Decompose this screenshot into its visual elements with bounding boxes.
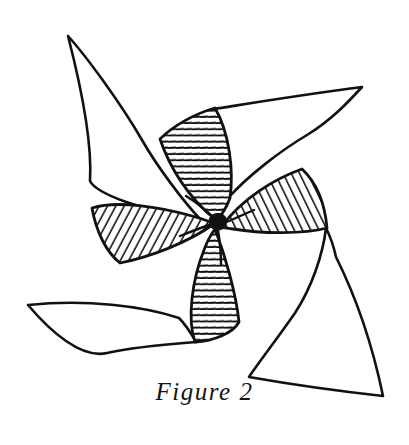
figure-caption: Figure 2 (0, 378, 409, 406)
center-hub (209, 214, 227, 231)
figure-container: Figure 2 (0, 0, 409, 445)
